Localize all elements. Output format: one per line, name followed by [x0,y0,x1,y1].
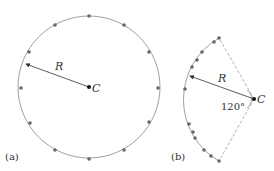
radius-label-b: R [218,73,226,84]
charge-dots-b [183,36,221,163]
angle-label: 120° [221,102,245,112]
panel-b-figure [183,36,256,163]
radius-label-a: R [55,61,63,72]
angle-arc [247,90,252,108]
diagram-canvas [0,0,274,171]
center-label-a: C [92,83,100,94]
center-point-b [252,97,256,101]
sector-edge-top [219,38,254,99]
center-label-b: C [257,94,265,105]
center-point-a [87,85,91,89]
panel-label-a: (a) [5,152,19,162]
panel-a-figure [18,14,160,161]
panel-label-b: (b) [171,152,185,162]
sector-arc [183,38,219,161]
